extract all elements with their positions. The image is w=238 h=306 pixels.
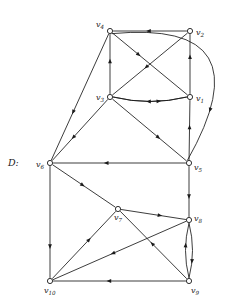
node-circle-v8[interactable] [186,217,191,222]
node-label-v4: v4 [96,20,105,30]
node-label-v6: v6 [36,160,45,170]
edge-layer [48,29,214,283]
graph-edge-v9-to-v8 [186,223,190,278]
arrow-head-icon [157,213,162,217]
node-circle-v1[interactable] [187,94,192,99]
arrow-head-icon [107,279,112,283]
arrow-head-icon [188,55,192,60]
node-label-v2: v2 [196,28,205,38]
node-circle-v5[interactable] [186,160,191,165]
directed-graph-canvas: v1v2v3v4v5v6v7v8v9v10 D: [0,0,238,306]
graph-node-v4[interactable]: v4 [96,20,113,34]
node-label-v10: v10 [44,286,56,296]
node-label-v7: v7 [114,213,123,223]
node-label-v8: v8 [194,214,203,224]
arrow-head-icon [209,107,213,112]
node-circle-v2[interactable] [187,28,192,33]
figure-container: v1v2v3v4v5v6v7v8v9v10 D: [0,0,238,306]
arrow-head-icon [187,194,191,199]
node-label-v9: v9 [191,286,200,296]
arrow-head-icon [108,59,112,64]
graph-edge-v3-to-v5 [112,99,186,161]
node-circle-v7[interactable] [115,206,120,211]
arrow-head-icon [188,125,192,130]
arrow-head-icon [184,243,188,248]
arrow-head-icon [156,99,161,103]
node-label-v1: v1 [196,94,204,104]
node-label-v3: v3 [96,93,105,103]
graph-edge-v3-to-v6 [52,99,108,160]
graph-edge-v5-to-v1 [189,100,190,160]
graph-node-v9[interactable]: v9 [186,278,199,296]
graph-edge-v10-to-v7 [52,211,116,279]
graph-edge-v8-to-v10 [53,221,186,280]
graph-edge-v7-to-v8 [121,209,186,219]
graph-edge-v8-to-v9 [189,223,193,278]
node-circle-v6[interactable] [47,160,52,165]
node-circle-v4[interactable] [107,28,112,33]
diagram-label: D: [7,157,19,168]
node-circle-v10[interactable] [47,278,52,283]
arrow-head-icon [104,161,109,165]
arrow-head-icon [48,244,52,249]
arrow-head-icon [111,251,116,255]
graph-node-v7[interactable]: v7 [114,206,123,223]
arrow-head-icon [80,182,85,186]
node-circle-v9[interactable] [186,278,191,283]
node-layer: v1v2v3v4v5v6v7v8v9v10 [36,20,205,296]
node-circle-v3[interactable] [107,94,112,99]
graph-node-v3[interactable]: v3 [96,93,113,103]
node-label-v5: v5 [194,163,203,173]
